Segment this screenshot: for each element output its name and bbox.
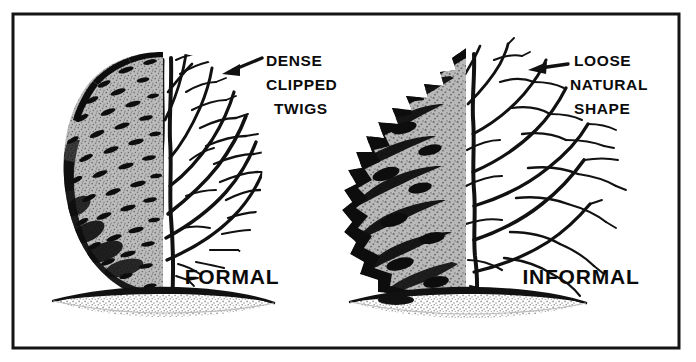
informal-caption: INFORMAL <box>522 265 639 288</box>
callout-line-1: LOOSE <box>574 52 631 69</box>
callout-line-1: DENSE <box>266 52 322 69</box>
callout-line-2: NATURAL <box>570 76 648 93</box>
callout-line-3: TWIGS <box>274 100 328 117</box>
figure-root: FORMAL <box>0 0 696 362</box>
shrub-comparison-illustration: FORMAL <box>0 0 696 362</box>
formal-caption: FORMAL <box>185 265 280 288</box>
callout-line-3: SHAPE <box>574 100 630 117</box>
callout-line-2: CLIPPED <box>266 76 337 93</box>
